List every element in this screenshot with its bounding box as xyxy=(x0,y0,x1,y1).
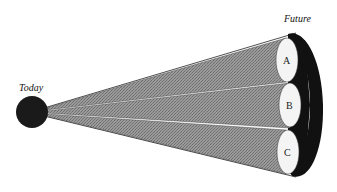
futures-cone-diagram: Today Future A B C xyxy=(0,0,337,192)
cone-a-label: A xyxy=(283,55,291,66)
today-label: Today xyxy=(19,82,44,93)
cone-c-label: C xyxy=(284,147,291,158)
today-circle xyxy=(16,96,48,128)
cone-b-label: B xyxy=(286,100,293,111)
future-label: Future xyxy=(283,13,311,24)
